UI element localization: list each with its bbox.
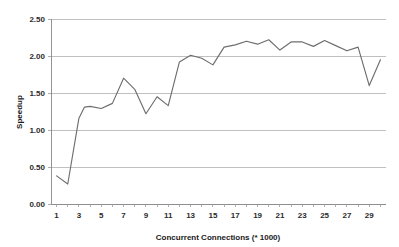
- x-tick-label: 5: [99, 211, 104, 220]
- x-tick-label: 27: [342, 211, 351, 220]
- x-tick-label: 25: [320, 211, 329, 220]
- y-tick-label: 2.00: [29, 52, 45, 61]
- y-tick-label: 0.00: [29, 200, 45, 209]
- x-tick-label: 21: [275, 211, 284, 220]
- x-tick-label: 13: [186, 211, 195, 220]
- x-tick-label: 11: [164, 211, 173, 220]
- x-tick-label: 29: [365, 211, 374, 220]
- x-tick-label: 15: [208, 211, 217, 220]
- x-axis-tick-labels: 1357911131517192123252729: [54, 211, 374, 220]
- x-tick-label: 7: [121, 211, 126, 220]
- y-tick-label: 2.50: [29, 15, 45, 24]
- x-tick-label: 3: [77, 211, 82, 220]
- x-tick-label: 9: [144, 211, 149, 220]
- chart-background: [0, 0, 399, 247]
- speedup-line-chart: 0.000.501.001.502.002.50 135791113151719…: [0, 0, 399, 247]
- y-axis-title: Speedup: [15, 95, 24, 129]
- x-tick-label: 1: [54, 211, 59, 220]
- x-tick-label: 17: [231, 211, 240, 220]
- y-tick-label: 1.50: [29, 89, 45, 98]
- y-tick-label: 1.00: [29, 126, 45, 135]
- x-tick-label: 19: [253, 211, 262, 220]
- y-tick-label: 0.50: [29, 163, 45, 172]
- x-tick-label: 23: [298, 211, 307, 220]
- x-axis-title: Concurrent Connections (* 1000): [156, 233, 281, 242]
- chart-canvas: 0.000.501.001.502.002.50 135791113151719…: [0, 0, 399, 247]
